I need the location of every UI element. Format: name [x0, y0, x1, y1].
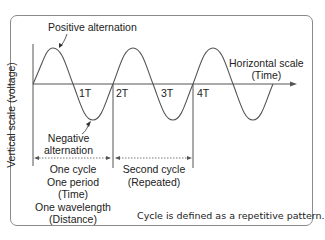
positive-alternation-label: Positive alternation [48, 21, 137, 33]
arrow-left-icon [34, 156, 39, 160]
first-cycle-label: One cycle One period (Time) One waveleng… [34, 163, 112, 226]
vertical-scale-label: Vertical scale (voltage) [5, 62, 17, 168]
negative-alternation-label: Negative alternation [44, 132, 93, 156]
arrow-right-icon [106, 156, 111, 160]
cycle-definition-note: Cycle is defined as a repetitive pattern… [137, 210, 325, 222]
pointer-arrowhead-icon [86, 121, 91, 127]
second-cycle-label: Second cycle (Repeated) [114, 163, 194, 188]
arrow-left-icon [115, 156, 120, 160]
tick-1T: 1T [79, 87, 91, 99]
tick-3T: 3T [161, 87, 173, 99]
axis-arrowhead-icon [290, 82, 297, 87]
tick-2T: 2T [116, 87, 128, 99]
horizontal-scale-label: Horizontal scale (Time) [229, 57, 304, 81]
tick-4T: 4T [197, 87, 209, 99]
arrow-right-icon [187, 156, 192, 160]
